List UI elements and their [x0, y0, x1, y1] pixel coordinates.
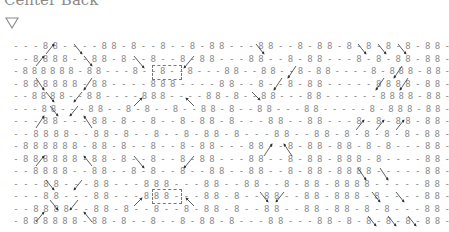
stitch-cell: 8	[95, 103, 105, 115]
stitch-cell: 8	[178, 153, 188, 165]
purl-cell: -	[67, 103, 77, 115]
purl-cell: -	[442, 53, 449, 65]
stitch-cell: 8	[374, 78, 384, 90]
purl-cell: -	[292, 190, 302, 202]
stitch-cell: 8	[282, 128, 292, 140]
purl-cell: -	[252, 128, 262, 140]
purl-cell: -	[442, 78, 449, 90]
purl-cell: -	[129, 78, 139, 90]
stitch-cell: 8	[322, 128, 332, 140]
stitch-cell: 8	[364, 140, 374, 152]
purl-cell: -	[182, 190, 192, 202]
stitch-cell: 8	[99, 140, 109, 152]
stitch-cell: 8	[282, 178, 292, 190]
purl-cell: -	[442, 40, 449, 52]
stitch-cell: 8	[142, 103, 152, 115]
section-title: Center Back	[4, 0, 98, 9]
purl-cell: -	[227, 153, 237, 165]
triangle-down-outline-icon[interactable]	[5, 17, 19, 29]
stitch-cell: 8	[50, 115, 60, 127]
purl-cell: -	[442, 140, 449, 152]
purl-cell: -	[237, 140, 247, 152]
purl-cell: -	[295, 165, 305, 177]
purl-cell: -	[402, 178, 412, 190]
stitch-cell: 8	[252, 178, 262, 190]
stitch-cell: 8	[276, 115, 286, 127]
purl-cell: -	[77, 103, 87, 115]
purl-cell: -	[129, 140, 139, 152]
stitch-cell: 8	[90, 115, 100, 127]
purl-cell: -	[335, 115, 345, 127]
purl-cell: -	[70, 165, 80, 177]
purl-cell: -	[21, 115, 31, 127]
purl-cell: -	[393, 215, 403, 227]
stitch-cell: 8	[262, 203, 272, 215]
purl-cell: -	[266, 165, 276, 177]
stitch-cell: 8	[109, 40, 119, 52]
stitch-cell: 8	[148, 115, 158, 127]
stitch-cell: 8	[158, 40, 168, 52]
purl-cell: -	[320, 103, 330, 115]
purl-cell: -	[322, 203, 332, 215]
stitch-cell: 8	[382, 128, 392, 140]
stitch-cell: 8	[212, 203, 222, 215]
stitch-cell: 8	[422, 203, 432, 215]
stitch-cell: 8	[302, 103, 312, 115]
purl-cell: -	[158, 140, 168, 152]
stitch-cell: 8	[148, 165, 158, 177]
stitch-cell: 8	[354, 53, 364, 65]
purl-cell: -	[168, 140, 178, 152]
stitch-cell: 8	[39, 103, 49, 115]
purl-cell: -	[111, 178, 121, 190]
purl-cell: -	[352, 203, 362, 215]
purl-cell: -	[139, 78, 149, 90]
stitch-cell: 8	[51, 203, 61, 215]
purl-cell: -	[227, 53, 237, 65]
stitch-cell: 8	[374, 115, 384, 127]
purl-cell: -	[158, 115, 168, 127]
purl-cell: -	[354, 40, 364, 52]
stitch-cell: 8	[433, 40, 443, 52]
selection-box[interactable]	[152, 65, 182, 80]
stitch-cell: 8	[384, 40, 394, 52]
stitch-cell: 8	[302, 190, 312, 202]
stitch-cell: 8	[311, 103, 321, 115]
stitch-cell: 8	[305, 165, 315, 177]
purl-cell: -	[70, 40, 80, 52]
purl-cell: -	[11, 115, 21, 127]
purl-cell: -	[21, 53, 31, 65]
purl-cell: -	[172, 178, 182, 190]
purl-cell: -	[262, 128, 272, 140]
purl-cell: -	[392, 203, 402, 215]
purl-cell: -	[11, 190, 21, 202]
stitch-cell: 8	[207, 115, 217, 127]
purl-cell: -	[148, 40, 158, 52]
stitch-cell: 8	[141, 190, 151, 202]
stitch-cell: 8	[21, 215, 31, 227]
purl-cell: -	[60, 115, 70, 127]
purl-cell: -	[393, 153, 403, 165]
purl-cell: -	[442, 178, 449, 190]
stitch-cell: 8	[101, 190, 111, 202]
stitch-cell: 8	[354, 115, 364, 127]
purl-cell: -	[246, 115, 256, 127]
purl-cell: -	[384, 165, 394, 177]
purl-cell: -	[335, 53, 345, 65]
purl-cell: -	[189, 103, 199, 115]
stitch-cell: 8	[395, 103, 405, 115]
stitch-cell: 8	[91, 178, 101, 190]
purl-cell: -	[372, 203, 382, 215]
purl-cell: -	[413, 78, 423, 90]
stitch-cell: 8	[90, 153, 100, 165]
selection-box[interactable]	[152, 189, 182, 204]
stitch-cell: 8	[305, 140, 315, 152]
purl-cell: -	[90, 40, 100, 52]
stitch-cell: 8	[262, 190, 272, 202]
purl-cell: -	[412, 203, 422, 215]
stitch-cell: 8	[197, 140, 207, 152]
purl-cell: -	[237, 115, 247, 127]
stitch-cell: 8	[433, 153, 443, 165]
purl-cell: -	[168, 53, 178, 65]
stitch-cell: 8	[433, 140, 443, 152]
purl-cell: -	[197, 78, 207, 90]
